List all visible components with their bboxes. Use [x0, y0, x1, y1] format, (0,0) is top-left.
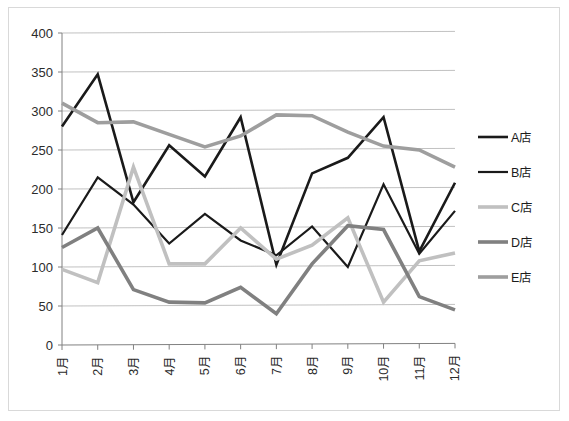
x-tick-label: 8月	[306, 355, 320, 375]
x-tick-label: 4月	[163, 356, 177, 376]
y-tick-label: 100	[31, 260, 53, 275]
y-tick-label: 300	[31, 104, 53, 119]
x-axis-line	[62, 343, 455, 345]
gridline	[62, 109, 455, 111]
series-line-4	[62, 226, 455, 314]
x-tick-label: 6月	[234, 355, 248, 375]
x-tick-label: 7月	[270, 355, 284, 375]
gridline	[62, 226, 455, 228]
y-tick-label: 150	[31, 221, 53, 236]
gridline	[62, 31, 455, 33]
x-tick-label: 2月	[91, 356, 105, 376]
x-tick-label: 9月	[341, 355, 355, 375]
x-tick-label: 11月	[413, 355, 427, 381]
y-tick-label: 50	[39, 299, 53, 314]
legend-label-D店[interactable]: D店	[511, 236, 533, 250]
chart-container: 050100150200250300350400 1月2月3月4月5月6月7月8…	[0, 0, 569, 421]
gridline	[62, 304, 455, 306]
line-chart-plot: 050100150200250300350400 1月2月3月4月5月6月7月8…	[0, 0, 569, 421]
y-tick-label: 0	[46, 338, 53, 353]
legend-label-A店[interactable]: A店	[511, 131, 532, 145]
x-tick-label: 10月	[377, 355, 391, 382]
y-tick-label: 350	[31, 65, 53, 80]
y-tick-label: 200	[31, 182, 53, 197]
legend-label-B店[interactable]: B店	[511, 166, 532, 180]
y-tick-label: 400	[31, 26, 53, 41]
gridline	[62, 70, 455, 72]
series-line-1	[62, 74, 455, 264]
x-tick-label: 1月	[56, 356, 70, 376]
x-axis-tick-labels: 1月2月3月4月5月6月7月8月9月10月11月12月	[56, 354, 463, 381]
x-tick-label: 12月	[449, 354, 463, 381]
legend-label-C店[interactable]: C店	[511, 201, 533, 215]
y-tick-label: 250	[31, 143, 53, 158]
y-axis-tick-labels: 050100150200250300350400	[31, 26, 53, 353]
x-tick-label: 3月	[127, 356, 141, 376]
chart-legend: A店B店C店D店E店	[478, 131, 533, 285]
legend-label-E店[interactable]: E店	[511, 271, 532, 285]
x-tick-label: 5月	[198, 355, 212, 375]
